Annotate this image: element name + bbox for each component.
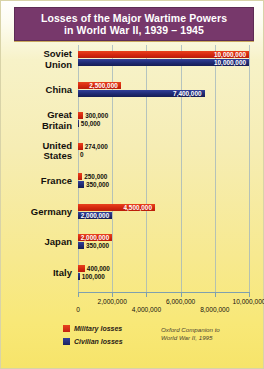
legend-item-civilian: Civilian losses xyxy=(63,336,123,347)
legend-label-military: Military losses xyxy=(74,325,122,332)
x-tick xyxy=(181,293,182,297)
x-tick xyxy=(112,293,113,297)
bar-value-label: 10,000,000 xyxy=(214,58,246,67)
plot-area: SovietUnion10,000,00010,000,000China2,50… xyxy=(1,45,264,300)
bar-row: China2,500,0007,400,000 xyxy=(1,78,264,109)
category-label: Italy xyxy=(1,268,72,279)
x-tick xyxy=(249,293,250,297)
bar-row: UnitedStates274,0000 xyxy=(1,139,264,170)
legend: Military losses Civilian losses xyxy=(63,323,123,349)
bar-row: France250,000350,000 xyxy=(1,169,264,200)
bar-row: SovietUnion10,000,00010,000,000 xyxy=(1,47,264,78)
x-tick-label: 10,000,000 xyxy=(232,298,264,305)
bar-row: Germany4,500,0002,000,000 xyxy=(1,200,264,231)
bar-value-label: 350,000 xyxy=(86,241,109,250)
bar-fill xyxy=(78,265,85,272)
bar-fill xyxy=(78,242,84,249)
bar-value-label: 7,400,000 xyxy=(173,89,201,98)
legend-label-civilian: Civilian losses xyxy=(74,338,123,345)
category-label: SovietUnion xyxy=(1,49,72,70)
x-tick-label: 2,000,000 xyxy=(98,298,127,305)
category-label: China xyxy=(1,85,72,96)
bar-fill xyxy=(78,273,80,280)
x-tick-label: 0 xyxy=(76,306,80,313)
source-line-1: Oxford Companion to xyxy=(161,326,261,334)
chart-title: Losses of the Major Wartime Powers in Wo… xyxy=(14,7,254,41)
bar-value-label: 100,000 xyxy=(82,272,105,281)
category-label: UnitedStates xyxy=(1,141,72,162)
x-tick xyxy=(146,293,147,297)
title-line-2: in World War II, 1939 – 1945 xyxy=(64,24,204,36)
bar-row: Italy400,000100,000 xyxy=(1,261,264,292)
bar-value-label: 350,000 xyxy=(86,180,109,189)
source-line-2: World War II, 1995 xyxy=(161,334,261,342)
bar-value-label: 50,000 xyxy=(81,119,101,128)
bar-fill xyxy=(78,112,83,119)
x-tick-label: 6,000,000 xyxy=(166,298,195,305)
bar-fill xyxy=(78,173,82,180)
bar-fill xyxy=(78,143,83,150)
x-tick xyxy=(215,293,216,297)
bar-row: GreatBritain300,00050,000 xyxy=(1,108,264,139)
category-label: France xyxy=(1,176,72,187)
category-label: GreatBritain xyxy=(1,110,72,131)
chart-figure: Losses of the Major Wartime Powers in Wo… xyxy=(0,0,264,369)
x-tick-label: 4,000,000 xyxy=(132,306,161,313)
category-label: Japan xyxy=(1,237,72,248)
bar-value-label: 2,500,000 xyxy=(89,81,117,90)
x-axis: 02,000,0004,000,0006,000,0008,000,00010,… xyxy=(1,293,264,319)
bar-rows: SovietUnion10,000,00010,000,000China2,50… xyxy=(1,47,264,291)
source-note: Oxford Companion to World War II, 1995 xyxy=(161,326,261,342)
bar-value-label: 274,000 xyxy=(85,142,108,151)
military-swatch-icon xyxy=(63,325,70,332)
bar-value-label: 2,000,000 xyxy=(81,211,109,220)
legend-item-military: Military losses xyxy=(63,323,123,334)
bar-row: Japan2,000,000350,000 xyxy=(1,230,264,261)
x-tick-label: 8,000,000 xyxy=(200,306,229,313)
category-label: Germany xyxy=(1,207,72,218)
civilian-swatch-icon xyxy=(63,338,70,345)
bar-value-label: 4,500,000 xyxy=(124,203,152,212)
bar-fill xyxy=(78,120,79,127)
bar-value-label: 0 xyxy=(80,150,84,159)
bar-fill xyxy=(78,181,84,188)
x-tick xyxy=(78,293,79,297)
title-line-1: Losses of the Major Wartime Powers xyxy=(41,12,227,24)
